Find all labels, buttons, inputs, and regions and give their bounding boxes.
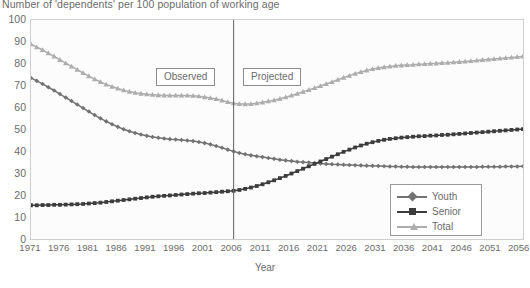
data-point-marker: [145, 195, 149, 199]
data-point-marker: [209, 191, 213, 195]
y-tick-label-80: 80: [0, 58, 26, 68]
x-tick-label-2056: 2056: [502, 243, 530, 253]
data-point-marker: [243, 187, 247, 191]
data-point-marker: [313, 162, 317, 166]
data-point-marker: [324, 157, 328, 161]
data-point-marker: [272, 178, 276, 182]
data-point-marker: [173, 137, 178, 142]
data-point-marker: [208, 142, 213, 147]
legend-swatch-youth: [397, 191, 427, 202]
data-point-marker: [486, 164, 491, 169]
data-point-marker: [220, 190, 224, 194]
data-point-marker: [260, 155, 265, 160]
data-point-marker: [469, 131, 473, 135]
data-point-marker: [359, 144, 363, 148]
data-point-marker: [498, 164, 503, 169]
data-point-marker: [52, 203, 56, 207]
data-point-marker: [197, 191, 201, 195]
data-point-marker: [197, 140, 202, 145]
y-tick-label-100: 100: [0, 14, 26, 24]
legend-label-senior: Senior: [432, 206, 461, 217]
data-point-marker: [116, 199, 120, 203]
data-point-marker: [347, 148, 351, 152]
data-point-marker: [457, 132, 461, 136]
data-point-marker: [249, 186, 253, 190]
chart-legend: Youth Senior Total: [390, 184, 482, 236]
data-point-marker: [486, 130, 490, 134]
data-point-marker: [451, 165, 456, 170]
data-point-marker: [272, 157, 277, 162]
data-point-marker: [202, 141, 207, 146]
data-point-marker: [185, 138, 190, 143]
data-point-marker: [307, 160, 312, 165]
square-marker-icon: [409, 208, 416, 215]
data-point-marker: [481, 130, 485, 134]
data-point-marker: [364, 163, 369, 168]
data-point-marker: [463, 132, 467, 136]
data-point-marker: [162, 194, 166, 198]
data-point-marker: [353, 163, 358, 168]
data-point-marker: [133, 131, 138, 136]
data-point-marker: [498, 129, 502, 133]
annotation-projected: Projected: [243, 68, 301, 86]
legend-item-senior: Senior: [391, 204, 481, 219]
chart-container: Number of 'dependents' per 100 populatio…: [0, 0, 530, 288]
data-point-marker: [382, 164, 387, 169]
data-point-marker: [203, 191, 207, 195]
data-point-marker: [295, 159, 300, 164]
legend-swatch-senior: [397, 206, 427, 217]
legend-item-youth: Youth: [391, 189, 481, 204]
data-point-marker: [388, 164, 393, 169]
data-point-marker: [347, 163, 352, 168]
data-point-marker: [295, 169, 299, 173]
triangle-marker-icon: [410, 223, 418, 230]
data-point-marker: [399, 164, 404, 169]
data-point-marker: [445, 165, 450, 170]
data-point-marker: [220, 145, 225, 150]
data-point-marker: [144, 134, 149, 139]
data-point-marker: [475, 131, 479, 135]
data-point-marker: [58, 203, 62, 207]
data-point-marker: [266, 156, 271, 161]
data-point-marker: [394, 136, 398, 140]
data-point-marker: [428, 134, 432, 138]
data-point-marker: [237, 188, 241, 192]
data-point-marker: [110, 199, 114, 203]
data-point-marker: [31, 203, 33, 207]
data-point-marker: [284, 174, 288, 178]
data-point-marker: [174, 193, 178, 197]
data-point-marker: [324, 162, 329, 167]
data-point-marker: [434, 165, 439, 170]
data-point-marker: [179, 138, 184, 143]
x-axis-title: Year: [0, 262, 530, 273]
y-tick-label-40: 40: [0, 146, 26, 156]
data-point-marker: [127, 129, 132, 134]
data-point-marker: [214, 144, 219, 149]
data-point-marker: [99, 201, 103, 205]
data-point-marker: [46, 203, 50, 207]
data-point-marker: [156, 136, 161, 141]
data-point-marker: [226, 147, 231, 152]
data-point-marker: [515, 164, 520, 169]
data-point-marker: [504, 128, 508, 132]
y-tick-label-90: 90: [0, 36, 26, 46]
data-point-marker: [87, 202, 91, 206]
y-tick-label-70: 70: [0, 80, 26, 90]
data-point-marker: [336, 152, 340, 156]
data-point-marker: [411, 165, 416, 170]
series-line: [31, 78, 523, 167]
data-point-marker: [104, 200, 108, 204]
data-point-marker: [341, 162, 346, 167]
data-point-marker: [41, 203, 45, 207]
data-point-marker: [353, 146, 357, 150]
data-point-marker: [185, 192, 189, 196]
data-point-marker: [474, 165, 479, 170]
data-point-marker: [509, 164, 514, 169]
data-point-marker: [330, 155, 334, 159]
data-point-marker: [434, 134, 438, 138]
data-point-marker: [359, 163, 364, 168]
legend-label-youth: Youth: [432, 191, 457, 202]
data-point-marker: [93, 201, 97, 205]
data-point-marker: [440, 165, 445, 170]
series-youth: [31, 76, 523, 170]
